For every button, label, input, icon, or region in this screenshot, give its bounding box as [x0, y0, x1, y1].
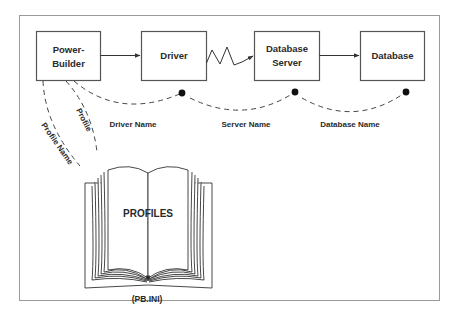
node-label: Driver [160, 50, 188, 61]
label-profile: Profile [74, 107, 94, 134]
arc-driver-name [74, 81, 182, 104]
book-icon [85, 167, 212, 288]
label-database-name: Database Name [320, 120, 380, 129]
node-label: Power- [53, 44, 85, 55]
profile-diagram: Power- Builder Driver Database Server Da… [0, 0, 456, 316]
node-label: Builder [52, 58, 85, 69]
node-driver: Driver [142, 32, 207, 81]
dot-database-name [403, 89, 410, 96]
dot-driver-name [179, 90, 186, 97]
node-label: Server [272, 57, 302, 68]
label-driver-name: Driver Name [109, 120, 157, 129]
node-database-server: Database Server [255, 32, 320, 81]
zigzag-driver-server [207, 47, 254, 65]
book-caption: (PB.INI) [132, 294, 163, 304]
node-powerbuilder: Power- Builder [37, 32, 101, 81]
dot-server-name [292, 89, 299, 96]
node-label: Database [266, 43, 308, 54]
arc-server-name [190, 92, 295, 110]
node-database: Database [361, 32, 425, 81]
label-profile-name: Profile Name [39, 121, 75, 167]
arc-database-name [302, 92, 406, 112]
book-title: PROFILES [123, 208, 173, 219]
node-label: Database [371, 50, 413, 61]
label-server-name: Server Name [222, 120, 271, 129]
